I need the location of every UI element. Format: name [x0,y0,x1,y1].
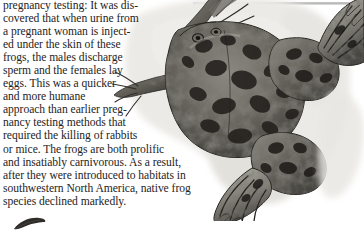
frog-webbed-foot-upper [318,0,364,65]
body-line: after they were introduced to habitats i… [3,169,208,182]
body-line: required the killing of rabbits [3,129,208,142]
next-figure-stub [13,214,47,232]
body-line: species declined markedly. [3,195,208,208]
body-line: frogs, the males discharge [3,51,208,64]
body-line: and more humane [3,90,208,103]
article-body-text: pregnancy testing: It was dis- covered t… [3,0,208,208]
body-line: southwestern North America, native frog [3,182,208,195]
body-line: a pregnant woman is inject- [3,25,208,38]
body-line: eggs. This was a quicker [3,77,208,90]
body-line: ed under the skin of these [3,38,208,51]
body-line: nancy testing methods that [3,116,208,129]
body-line: or mice. The frogs are both prolific [3,143,208,156]
body-line: and insatiably carnivorous. As a result, [3,156,208,169]
page-canvas: pregnancy testing: It was dis- covered t… [0,0,364,235]
body-line: approach than earlier preg- [3,103,208,116]
body-line: covered that when urine from [3,12,208,25]
body-line: pregnancy testing: It was dis- [3,0,208,12]
body-line: sperm and the females lay [3,64,208,77]
